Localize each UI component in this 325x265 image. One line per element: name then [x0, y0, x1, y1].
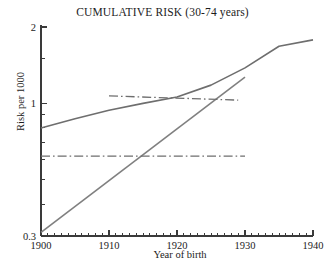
plot-area: 190019101920193019400.312 — [0, 0, 325, 265]
x-tick-label: 1930 — [235, 240, 256, 251]
axes-group — [41, 25, 313, 236]
x-tick-label: 1940 — [303, 240, 324, 251]
y-tick-label: 2 — [31, 22, 36, 33]
data-series-group — [41, 40, 313, 233]
tick-labels-group: 190019101920193019400.312 — [23, 22, 324, 251]
series-steep-trend-line — [41, 77, 245, 232]
tick-marks-group — [41, 27, 313, 236]
x-tick-label: 1910 — [99, 240, 120, 251]
y-tick-label: 1 — [31, 98, 36, 109]
y-tick-label: 0.3 — [23, 231, 36, 242]
series-cumulative-risk-curve — [41, 40, 313, 128]
cumulative-risk-chart: CUMULATIVE RISK (30-74 years) Risk per 1… — [0, 0, 325, 265]
x-tick-label: 1920 — [167, 240, 188, 251]
